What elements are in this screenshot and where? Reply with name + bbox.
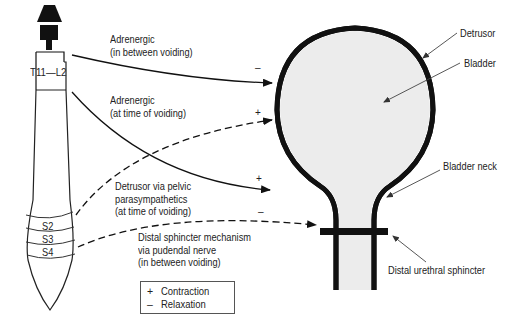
label-distal-sphincter: Distal sphincter mechanismvia pudendal n…: [138, 231, 251, 269]
sign-detrusor-pelvic: +: [256, 174, 262, 184]
label-bladder: Bladder: [464, 57, 496, 70]
legend: +Contraction –Relaxation: [140, 281, 235, 314]
legend-item-contraction: +Contraction: [147, 285, 215, 297]
label-adrenergic-voiding: Adrenergic(at time of voiding): [110, 94, 186, 119]
label-bladder-neck: Bladder neck: [443, 160, 497, 173]
segment-label-t11-l2: T11—L2: [30, 66, 66, 79]
upward-arrow-icon: [40, 25, 58, 50]
sign-adrenergic-between: –: [255, 63, 261, 73]
segment-label-s4: S4: [42, 246, 53, 259]
segment-label-s2: S2: [42, 220, 53, 233]
adrenergic-between-path: [72, 55, 272, 83]
diagram-canvas: [0, 0, 520, 330]
segment-label-s3: S3: [42, 233, 53, 246]
label-detrusor-pelvic: Detrusor via pelvicparasympathetics(at t…: [115, 180, 191, 218]
bladder-shape: [277, 28, 433, 290]
label-distal-urethral-sphincter: Distal urethral sphincter: [388, 264, 485, 277]
sign-adrenergic-voiding: +: [255, 108, 261, 118]
legend-item-relaxation: –Relaxation: [147, 298, 211, 310]
distal-sphincter-bar: [320, 228, 388, 235]
label-detrusor: Detrusor: [460, 27, 495, 40]
sign-distal-sphincter: –: [258, 207, 264, 217]
spinal-cord: [26, 5, 75, 310]
label-adrenergic-between: Adrenergic(in between voiding): [110, 33, 193, 58]
